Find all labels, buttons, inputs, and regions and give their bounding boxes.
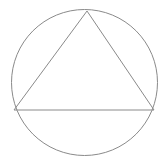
diagram-canvas xyxy=(0,0,162,163)
inscribed-triangle-diagram xyxy=(0,0,162,163)
triangle-shape xyxy=(14,11,154,110)
